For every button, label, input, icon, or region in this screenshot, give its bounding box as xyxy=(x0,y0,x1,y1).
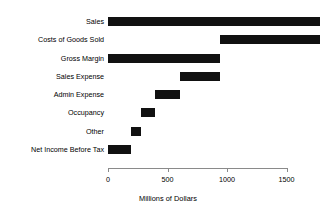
category-label-gross-margin: Gross Margin xyxy=(61,54,104,63)
x-axis-tick-label: 1500 xyxy=(279,175,295,184)
bar-gross-margin xyxy=(108,54,220,63)
bar-costs-of-goods-sold xyxy=(220,35,320,44)
category-label-admin-expense: Admin Expense xyxy=(54,90,104,99)
category-label-other: Other xyxy=(86,127,104,136)
bar-occupancy xyxy=(141,108,155,117)
x-axis-tick-label: 1000 xyxy=(219,175,235,184)
category-label-occupancy: Occupancy xyxy=(68,108,104,117)
bar-sales-expense xyxy=(180,72,220,81)
bar-net-income-before-tax xyxy=(108,145,131,154)
bar-sales xyxy=(108,17,320,26)
x-axis-line xyxy=(108,168,287,169)
x-axis-tick xyxy=(227,168,228,172)
x-axis-tick xyxy=(168,168,169,172)
x-axis-tick xyxy=(108,168,109,172)
category-label-costs-of-goods-sold: Costs of Goods Sold xyxy=(38,35,104,44)
bar-other xyxy=(131,127,141,136)
category-label-net-income-before-tax: Net Income Before Tax xyxy=(31,145,104,154)
waterfall-chart: Sales Costs of Goods Sold Gross Margin S… xyxy=(0,0,336,216)
x-axis-tick xyxy=(287,168,288,172)
x-axis-title: Millions of Dollars xyxy=(0,194,336,204)
category-label-sales: Sales xyxy=(86,17,104,26)
category-label-sales-expense: Sales Expense xyxy=(56,72,104,81)
x-axis-tick-label: 0 xyxy=(106,175,110,184)
x-axis-tick-label: 500 xyxy=(162,175,174,184)
bar-admin-expense xyxy=(155,90,180,99)
